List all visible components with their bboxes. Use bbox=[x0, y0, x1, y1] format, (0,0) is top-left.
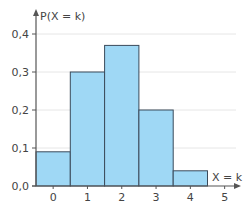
y-tick-labels: 0,00,10,20,30,4 bbox=[12, 28, 30, 193]
x-tick-label: 2 bbox=[118, 191, 125, 204]
bars bbox=[36, 45, 208, 186]
y-tick-label: 0,4 bbox=[12, 28, 30, 41]
bar-1 bbox=[70, 72, 104, 186]
x-tick-label: 0 bbox=[50, 191, 57, 204]
y-axis-arrow-icon bbox=[33, 9, 39, 16]
y-axis-label: P(X = k) bbox=[40, 10, 85, 23]
x-tick-label: 1 bbox=[84, 191, 91, 204]
histogram-chart: 0,00,10,20,30,4 012345 P(X = k) X = k bbox=[0, 0, 246, 212]
bar-0 bbox=[36, 152, 70, 186]
x-tick-label: 4 bbox=[187, 191, 194, 204]
x-tick-label: 5 bbox=[221, 191, 228, 204]
bar-4 bbox=[173, 171, 207, 186]
x-tick-label: 3 bbox=[153, 191, 160, 204]
y-tick-label: 0,2 bbox=[12, 104, 30, 117]
y-tick-label: 0,3 bbox=[12, 66, 30, 79]
bar-3 bbox=[139, 110, 173, 186]
x-tick-labels: 012345 bbox=[50, 191, 229, 204]
bar-2 bbox=[105, 45, 139, 186]
x-axis-label: X = k bbox=[212, 171, 243, 184]
y-tick-label: 0,0 bbox=[12, 180, 30, 193]
y-tick-label: 0,1 bbox=[12, 142, 30, 155]
